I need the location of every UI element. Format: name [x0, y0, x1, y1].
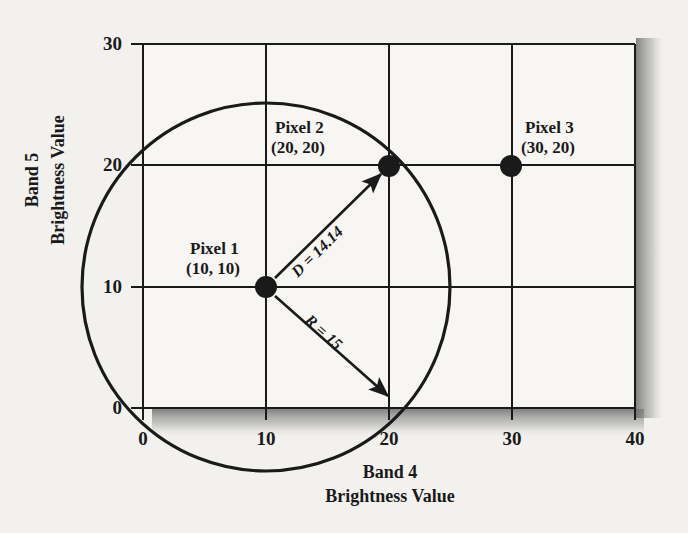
- point-label-pixel-2-coords: (20, 20): [271, 138, 325, 157]
- x-tick-label-10: 10: [246, 428, 286, 449]
- data-point-pixel-2[interactable]: [378, 155, 400, 177]
- y-axis-title-line2: Brightness Value: [48, 90, 68, 270]
- point-label-pixel-3-coords: (30, 20): [521, 138, 575, 157]
- x-tick-label-0: 0: [123, 428, 163, 449]
- data-point-pixel-1[interactable]: [255, 276, 277, 298]
- panel-shadow-right: [636, 38, 666, 418]
- x-axis-title-line1: Band 4: [300, 462, 480, 482]
- scatter-plot-svg: [0, 0, 688, 533]
- x-axis-title-line2: Brightness Value: [300, 486, 480, 506]
- x-tick-label-40: 40: [615, 428, 655, 449]
- x-tick-label-20: 20: [369, 428, 409, 449]
- point-label-pixel-1-coords: (10, 10): [186, 259, 240, 278]
- x-tick-label-30: 30: [492, 428, 532, 449]
- point-label-pixel-2-name: Pixel 2: [275, 118, 324, 137]
- figure-container: 30 20 10 0 0 10 20 30 40 Band 5 Brightne…: [0, 0, 688, 533]
- y-tick-label-30: 30: [78, 33, 122, 54]
- data-point-pixel-3[interactable]: [500, 155, 522, 177]
- y-tick-label-10: 10: [78, 276, 122, 297]
- point-label-pixel-3-name: Pixel 3: [525, 118, 574, 137]
- y-tick-label-0: 0: [78, 397, 122, 418]
- point-label-pixel-1-name: Pixel 1: [190, 239, 239, 258]
- y-axis-title-brightness: Brightness Value: [0, 170, 148, 194]
